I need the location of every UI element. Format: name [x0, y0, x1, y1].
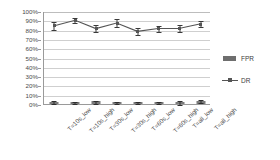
- dr-marker: [157, 27, 160, 30]
- dr-error-cap-lower: [52, 30, 57, 31]
- y-axis-tick-mark: [38, 31, 41, 32]
- dr-error-cap-upper: [115, 19, 120, 20]
- y-axis-tick-label: 100%: [22, 9, 38, 15]
- legend-label-dr: DR: [241, 77, 250, 84]
- legend-label-fpr: FPR: [241, 55, 254, 62]
- dr-error-cap-lower: [73, 23, 78, 24]
- chart-container: 0%10%20%30%40%50%60%70%80%90%100% T=10s_…: [0, 0, 280, 160]
- dr-point-group: [190, 12, 211, 104]
- y-axis-tick-label: 80%: [26, 27, 38, 33]
- chart-legend: FPR DR: [222, 52, 278, 96]
- dr-point-group: [65, 12, 86, 104]
- y-axis-tick-label: 20%: [26, 83, 38, 89]
- y-axis-tick-mark: [38, 77, 41, 78]
- dr-point-group: [128, 12, 149, 104]
- dr-line-marker-icon: [222, 76, 238, 85]
- fpr-error-cap-lower: [52, 104, 57, 105]
- dr-point-group: [107, 12, 128, 104]
- dr-marker: [95, 27, 98, 30]
- dr-error-cap-lower: [156, 32, 161, 33]
- fpr-error-cap-lower: [73, 104, 78, 105]
- y-axis-tick-label: 0%: [29, 102, 38, 108]
- dr-error-cap-upper: [52, 22, 57, 23]
- dr-error-cap-lower: [135, 35, 140, 36]
- dr-error-cap-upper: [177, 25, 182, 26]
- x-axis-tick-label: T=all_high: [212, 106, 237, 131]
- y-axis-tick-mark: [38, 49, 41, 50]
- dr-marker: [199, 23, 202, 26]
- y-axis-tick-mark: [38, 105, 41, 106]
- dr-error-cap-lower: [115, 27, 120, 28]
- fpr-error-cap-lower: [115, 104, 120, 105]
- dr-point-group: [148, 12, 169, 104]
- y-axis-tick-label: 70%: [26, 37, 38, 43]
- y-axis-tick-mark: [38, 96, 41, 97]
- y-axis-tick-mark: [38, 68, 41, 69]
- dr-point-group: [169, 12, 190, 104]
- y-axis-tick-mark: [38, 21, 41, 22]
- dr-marker: [53, 24, 56, 27]
- fpr-swatch-icon: [222, 54, 238, 63]
- dr-error-cap-upper: [94, 25, 99, 26]
- legend-item-dr: DR: [222, 74, 278, 87]
- y-axis-tick-mark: [38, 86, 41, 87]
- dr-error-cap-upper: [135, 28, 140, 29]
- dr-marker: [74, 19, 77, 22]
- legend-item-fpr: FPR: [222, 52, 278, 65]
- x-axis-labels: T=10s_lowT=10s_highT=30s_lowT=30s_highT=…: [43, 106, 210, 160]
- y-axis-tick-label: 50%: [26, 55, 38, 61]
- y-axis-tick-mark: [38, 40, 41, 41]
- y-axis-tick-label: 10%: [26, 93, 38, 99]
- dr-point-group: [86, 12, 107, 104]
- y-axis-tick-mark: [38, 59, 41, 60]
- dr-error-cap-lower: [198, 27, 203, 28]
- dr-marker: [136, 30, 139, 33]
- y-axis-tick-label: 40%: [26, 65, 38, 71]
- plot-area: [43, 12, 210, 105]
- dr-marker: [178, 27, 181, 30]
- y-axis-tick-mark: [38, 12, 41, 13]
- y-axis-tick-label: 90%: [26, 18, 38, 24]
- y-axis-tick-label: 60%: [26, 46, 38, 52]
- y-axis-tick-label: 30%: [26, 74, 38, 80]
- dr-error-cap-lower: [177, 32, 182, 33]
- dr-error-cap-lower: [94, 32, 99, 33]
- dr-point-group: [44, 12, 65, 104]
- y-axis: 0%10%20%30%40%50%60%70%80%90%100%: [0, 0, 42, 106]
- dr-marker: [116, 22, 119, 25]
- dr-line-series: [44, 12, 210, 104]
